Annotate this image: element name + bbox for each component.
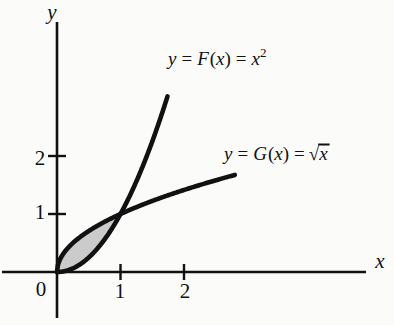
- x-tick-label-2: 2: [180, 279, 191, 303]
- sqrt-label-radical-icon: √: [309, 143, 320, 164]
- parabola-label-exponent: 2: [260, 45, 267, 60]
- parabola-label-close-paren: ): [225, 48, 231, 70]
- shaded-region: [57, 214, 121, 272]
- figure-root: 0 1 2 1 2 y x y=F(x)=x2 y=G(x)=√x: [0, 0, 394, 325]
- sqrt-label-radicand: x: [318, 143, 328, 164]
- curve-label-parabola: y=F(x)=x2: [166, 45, 267, 70]
- y-tick-label-2: 2: [35, 146, 46, 170]
- svg-text:y=G(x)=√x: y=G(x)=√x: [222, 143, 328, 165]
- origin-label: 0: [36, 277, 47, 301]
- sqrt-label-fn: G: [253, 143, 267, 164]
- y-axis-label: y: [45, 0, 57, 24]
- sqrt-label-close-paren: ): [283, 143, 289, 165]
- parabola-label-fn: F: [196, 48, 209, 69]
- sqrt-label-eq1: =: [237, 143, 248, 164]
- graph-canvas: 0 1 2 1 2 y x y=F(x)=x2 y=G(x)=√x: [0, 0, 394, 325]
- sqrt-label-y: y: [222, 143, 233, 164]
- x-axis-label: x: [374, 249, 385, 273]
- x-tick-label-1: 1: [115, 279, 126, 303]
- curve-label-sqrt: y=G(x)=√x: [222, 143, 330, 165]
- sqrt-label-eq2: =: [294, 143, 305, 164]
- parabola-label-eq1: =: [181, 48, 192, 69]
- parabola-label-eq2: =: [236, 48, 247, 69]
- parabola-label-y: y: [166, 48, 177, 69]
- y-tick-label-1: 1: [35, 200, 46, 224]
- svg-text:y=F(x)=x2: y=F(x)=x2: [166, 45, 267, 70]
